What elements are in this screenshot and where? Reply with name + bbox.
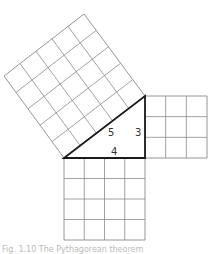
label-hypotenuse: 5 [108, 127, 114, 138]
label-vertical-leg: 3 [135, 127, 141, 138]
grid-line [16, 30, 96, 92]
label-horizontal-leg: 4 [111, 146, 117, 157]
figure-caption: Fig. 1.10 The Pythagorean theorem [2, 245, 143, 254]
square-outline [145, 96, 207, 158]
grid-line [68, 26, 129, 108]
square-on-leg-3 [145, 96, 207, 158]
square-on-leg-4 [64, 158, 145, 240]
